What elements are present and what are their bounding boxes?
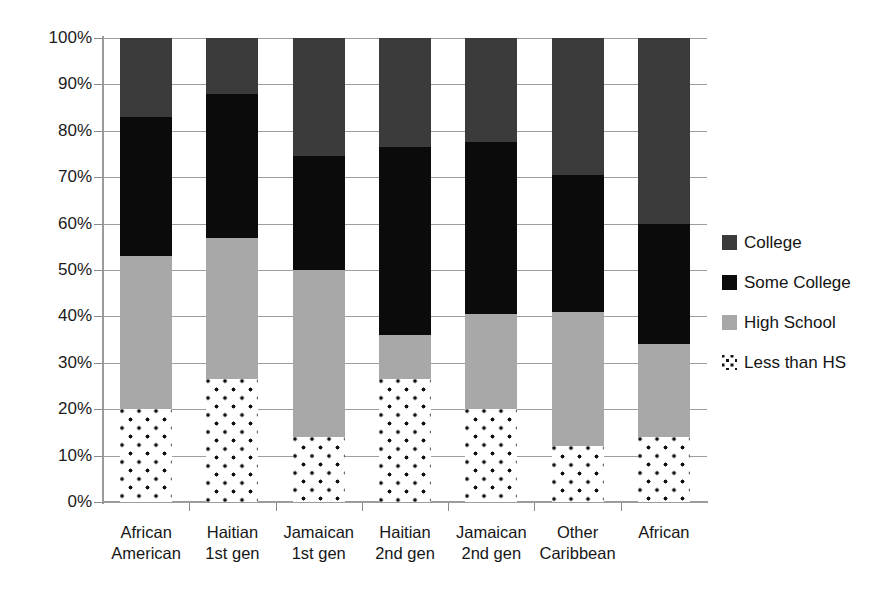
x-axis-category-label: African: [609, 522, 719, 543]
legend-label: Less than HS: [744, 354, 846, 371]
category-line-1: Haitian: [379, 523, 430, 541]
y-axis-tick: [94, 131, 103, 132]
y-axis-tick-label: 80%: [6, 122, 92, 139]
bar-segment-high-school: [206, 238, 258, 380]
x-axis-tick: [621, 503, 622, 511]
plot-area: [103, 38, 707, 502]
bar-segment-less-than-hs: [293, 437, 345, 502]
legend-item-less: Less than HS: [722, 342, 882, 382]
legend-swatch-icon: [722, 355, 737, 370]
legend-swatch-icon: [722, 235, 737, 250]
y-axis-tick-label: 10%: [6, 447, 92, 464]
bar-segment-college: [379, 38, 431, 147]
y-axis-tick-label: 70%: [6, 168, 92, 185]
bar-segment-high-school: [465, 314, 517, 409]
y-axis-tick: [94, 270, 103, 271]
bar-segment-high-school: [552, 312, 604, 447]
bar-segment-high-school: [638, 344, 690, 437]
y-axis-tick-label: 100%: [6, 29, 92, 46]
y-axis-tick-label: 30%: [6, 354, 92, 371]
bar-segment-less-than-hs: [552, 446, 604, 502]
legend-label: College: [744, 234, 802, 251]
category-line-1: African: [638, 523, 689, 541]
category-line-1: Jamaican: [456, 523, 527, 541]
y-axis-tick-label: 0%: [6, 493, 92, 510]
bar-segment-some-college: [120, 117, 172, 256]
bar-segment-college: [120, 38, 172, 117]
bar-segment-less-than-hs: [120, 409, 172, 502]
bar-4: [379, 38, 431, 502]
y-axis-tick: [94, 502, 103, 503]
y-axis-tick: [94, 316, 103, 317]
bar-segment-some-college: [638, 224, 690, 345]
bar-segment-some-college: [552, 175, 604, 312]
y-axis-tick: [94, 84, 103, 85]
x-axis-tick: [362, 503, 363, 511]
x-axis-tick: [448, 503, 449, 511]
bar-segment-college: [465, 38, 517, 142]
y-axis-tick: [94, 38, 103, 39]
legend-swatch-icon: [722, 275, 737, 290]
x-axis-tick: [189, 503, 190, 511]
y-axis-tick: [94, 224, 103, 225]
bar-1: [120, 38, 172, 502]
legend-item-some: Some College: [722, 262, 882, 302]
legend-item-college: College: [722, 222, 882, 262]
y-axis-tick: [94, 177, 103, 178]
y-axis-labels: 100%90%80%70%60%50%40%30%20%10%0%: [0, 0, 92, 591]
bar-segment-some-college: [465, 142, 517, 314]
bar-segment-college: [638, 38, 690, 224]
bar-3: [293, 38, 345, 502]
bar-segment-less-than-hs: [638, 437, 690, 502]
category-line-1: African: [120, 523, 171, 541]
bar-segment-college: [293, 38, 345, 156]
bar-segment-some-college: [379, 147, 431, 335]
bar-6: [552, 38, 604, 502]
y-axis-tick: [94, 363, 103, 364]
legend-label: High School: [744, 314, 836, 331]
bar-segment-college: [206, 38, 258, 94]
bar-segment-less-than-hs: [379, 379, 431, 502]
legend-item-hs: High School: [722, 302, 882, 342]
y-axis-tick-label: 20%: [6, 400, 92, 417]
y-axis-tick-label: 50%: [6, 261, 92, 278]
category-line-1: Haitian: [207, 523, 258, 541]
bar-7: [638, 38, 690, 502]
bar-segment-high-school: [120, 256, 172, 409]
y-axis-tick: [94, 456, 103, 457]
y-axis-tick-label: 90%: [6, 75, 92, 92]
category-line-1: Jamaican: [283, 523, 354, 541]
bar-segment-less-than-hs: [206, 379, 258, 502]
bar-segment-high-school: [379, 335, 431, 379]
y-axis-tick-label: 40%: [6, 307, 92, 324]
bar-2: [206, 38, 258, 502]
bar-segment-high-school: [293, 270, 345, 437]
legend-swatch-icon: [722, 315, 737, 330]
y-axis-tick-label: 60%: [6, 215, 92, 232]
bar-segment-less-than-hs: [465, 409, 517, 502]
gridline: [103, 502, 707, 503]
bar-segment-some-college: [293, 156, 345, 270]
legend-label: Some College: [744, 274, 851, 291]
category-line-2: Caribbean: [523, 543, 633, 564]
bar-segment-some-college: [206, 94, 258, 238]
y-axis-tick: [94, 409, 103, 410]
stacked-bar-chart: 100%90%80%70%60%50%40%30%20%10%0% Africa…: [0, 0, 887, 591]
x-axis-tick: [534, 503, 535, 511]
chart-legend: CollegeSome CollegeHigh SchoolLess than …: [722, 222, 882, 382]
category-line-1: Other: [557, 523, 598, 541]
bar-segment-college: [552, 38, 604, 175]
bar-5: [465, 38, 517, 502]
x-axis-tick: [276, 503, 277, 511]
